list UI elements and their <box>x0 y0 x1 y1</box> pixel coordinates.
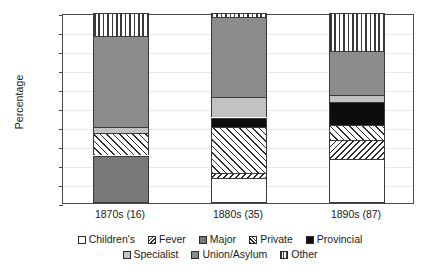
bar-segment-private <box>329 125 385 140</box>
legend-item-private[interactable]: Private <box>249 234 293 245</box>
legend-item-other[interactable]: Other <box>280 249 317 260</box>
dark-gray-swatch <box>199 236 207 244</box>
bar-1 <box>93 13 149 203</box>
bar-segment-fever <box>211 173 267 179</box>
legend-label: Other <box>291 249 317 260</box>
bar-segment-provincial <box>211 118 267 128</box>
legend: Children'sFeverMajorPrivateProvincial Sp… <box>0 232 440 262</box>
y-tick-mark <box>59 15 63 16</box>
backslash-hatch-swatch <box>148 236 156 244</box>
bar-segment-specialist <box>211 97 267 118</box>
stacked-bar-chart: Percentage 1009080706050403020100 1870s … <box>0 0 440 276</box>
y-tick-mark <box>59 53 63 54</box>
white-swatch <box>78 236 86 244</box>
bar-segment-children-s <box>329 159 385 203</box>
legend-item-children-s[interactable]: Children's <box>78 234 135 245</box>
legend-row-1: Children'sFeverMajorPrivateProvincial <box>0 232 440 247</box>
bar-segment-other <box>93 13 149 36</box>
forwardslash-hatch-swatch <box>249 236 257 244</box>
bar-2 <box>211 13 267 203</box>
legend-item-major[interactable]: Major <box>199 234 236 245</box>
plot-area <box>62 14 414 204</box>
legend-label: Major <box>210 234 236 245</box>
y-tick-mark <box>59 34 63 35</box>
legend-item-fever[interactable]: Fever <box>148 234 186 245</box>
bar-segment-private <box>211 127 267 173</box>
medium-gray-swatch <box>191 251 199 259</box>
bar-segment-other <box>211 13 267 17</box>
bar-segment-union-asylum <box>93 36 149 127</box>
legend-item-provincial[interactable]: Provincial <box>306 234 363 245</box>
bar-segment-other <box>329 13 385 51</box>
bar-segment-fever <box>329 140 385 159</box>
bar-segment-provincial <box>329 102 385 125</box>
bar-segment-children-s <box>211 178 267 203</box>
y-axis-title: Percentage <box>13 42 25 162</box>
x-tick-label: 1880s (35) <box>173 208 303 220</box>
y-tick-mark <box>59 186 63 187</box>
y-tick-mark <box>59 148 63 149</box>
legend-label: Union/Asylum <box>202 249 267 260</box>
legend-label: Private <box>260 234 293 245</box>
bar-segment-major <box>93 156 149 204</box>
legend-item-specialist[interactable]: Specialist <box>123 249 179 260</box>
legend-item-union-asylum[interactable]: Union/Asylum <box>191 249 267 260</box>
bar-segment-private <box>93 133 149 156</box>
vertical-lines-swatch <box>280 251 288 259</box>
legend-row-2: SpecialistUnion/AsylumOther <box>0 247 440 262</box>
light-gray-swatch <box>123 251 131 259</box>
y-tick-mark <box>59 205 63 206</box>
y-tick-mark <box>59 129 63 130</box>
bar-3 <box>329 13 385 203</box>
legend-label: Provincial <box>317 234 363 245</box>
y-tick-mark <box>59 91 63 92</box>
legend-label: Specialist <box>134 249 179 260</box>
legend-label: Fever <box>159 234 186 245</box>
black-swatch <box>306 236 314 244</box>
y-tick-mark <box>59 167 63 168</box>
x-tick-label: 1890s (87) <box>291 208 421 220</box>
y-tick-mark <box>59 72 63 73</box>
bar-segment-specialist <box>93 127 149 133</box>
bar-segment-specialist <box>329 95 385 103</box>
bar-segment-union-asylum <box>211 17 267 97</box>
legend-label: Children's <box>89 234 135 245</box>
y-tick-mark <box>59 110 63 111</box>
bar-segment-union-asylum <box>329 51 385 95</box>
x-tick-label: 1870s (16) <box>55 208 185 220</box>
